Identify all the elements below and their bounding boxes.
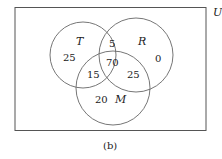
set-r-circle [99, 18, 173, 92]
region-r-only: 0 [155, 53, 161, 64]
set-r-label: R [137, 35, 146, 48]
set-m-label: M [114, 93, 127, 106]
universe-rectangle [15, 8, 206, 131]
set-t-circle [50, 22, 116, 88]
figure-caption: (b) [103, 140, 117, 151]
region-r-m: 25 [127, 69, 140, 80]
universe-label: U [213, 6, 222, 19]
region-m-only: 20 [95, 94, 108, 105]
region-t-m: 15 [87, 69, 100, 80]
venn-diagram: U T R M 25 0 20 5 15 25 70 (b) [0, 0, 222, 159]
region-t-only: 25 [63, 52, 76, 63]
set-t-label: T [76, 35, 85, 48]
region-t-r: 5 [109, 38, 115, 49]
region-t-r-m: 70 [106, 57, 119, 68]
